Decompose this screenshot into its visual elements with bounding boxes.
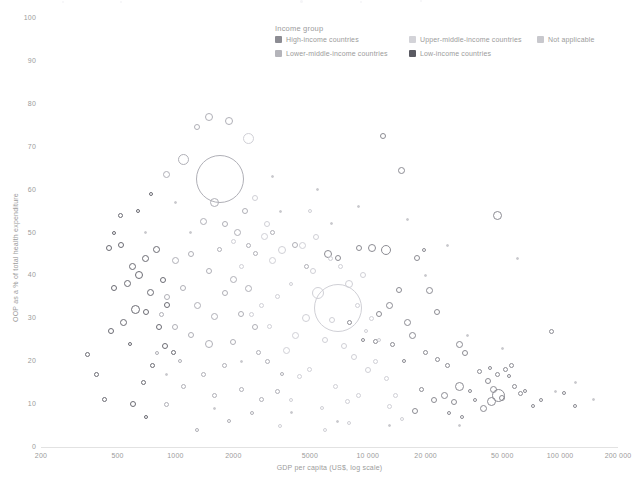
legend-item-not-applicable[interactable]: Not applicable (537, 36, 594, 43)
bubble-low-income-countries[interactable] (143, 309, 149, 315)
bubble-low-income-countries[interactable] (153, 246, 160, 253)
bubble-upper-middle-income-countries[interactable] (351, 354, 357, 360)
bubble-low-income-countries[interactable] (124, 280, 131, 287)
bubble-upper-middle-income-countries[interactable] (308, 209, 312, 213)
bubble-high-income-countries[interactable] (390, 342, 395, 347)
bubble-lower-middle-income-countries[interactable] (253, 251, 258, 256)
bubble-upper-middle-income-countries[interactable] (289, 398, 293, 402)
bubble-lower-middle-income-countries[interactable] (200, 218, 207, 225)
bubble-lower-middle-income-countries[interactable] (259, 397, 264, 402)
bubble-upper-middle-income-countries[interactable] (302, 314, 310, 322)
bubble-upper-middle-income-countries[interactable] (384, 376, 389, 381)
bubble-lower-middle-income-countries[interactable] (222, 363, 227, 368)
bubble-lower-middle-income-countries[interactable] (245, 285, 252, 292)
bubble-low-income-countries[interactable] (162, 343, 168, 349)
bubble-low-income-countries[interactable] (171, 350, 176, 355)
bubble-upper-middle-income-countries[interactable] (328, 256, 333, 261)
bubble-high-income-countries[interactable] (495, 372, 500, 377)
bubble-upper-middle-income-countries[interactable] (283, 347, 290, 354)
bubble-high-income-countries[interactable] (422, 248, 426, 252)
bubble-not-applicable[interactable] (406, 218, 409, 221)
bubble-high-income-countries[interactable] (380, 133, 386, 139)
bubble-lower-middle-income-countries[interactable] (225, 117, 233, 125)
bubble-upper-middle-income-countries[interactable] (252, 195, 258, 201)
bubble-high-income-countries[interactable] (402, 359, 406, 363)
bubble-lower-middle-income-countries[interactable] (164, 402, 169, 407)
bubble-high-income-countries[interactable] (509, 363, 514, 368)
bubble-low-income-countries[interactable] (147, 289, 154, 296)
bubble-lower-middle-income-countries[interactable] (275, 389, 280, 394)
bubble-not-applicable[interactable] (574, 381, 577, 384)
bubble-high-income-countries[interactable] (376, 311, 382, 317)
bubble-not-applicable[interactable] (466, 334, 469, 337)
bubble-high-income-countries[interactable] (356, 245, 362, 251)
bubble-lower-middle-income-countries[interactable] (265, 359, 270, 364)
bubble-high-income-countries[interactable] (445, 363, 450, 368)
bubble-low-income-countries[interactable] (128, 342, 132, 346)
bubble-high-income-countries[interactable] (431, 397, 437, 403)
bubble-upper-middle-income-countries[interactable] (275, 294, 280, 299)
bubble-lower-middle-income-countries[interactable] (188, 251, 194, 257)
bubble-low-income-countries[interactable] (136, 209, 140, 213)
bubble-high-income-countries[interactable] (480, 405, 487, 412)
bubble-lower-middle-income-countries[interactable] (172, 324, 178, 330)
bubble-not-applicable[interactable] (516, 257, 519, 260)
bubble-upper-middle-income-countries[interactable] (360, 272, 366, 278)
bubble-low-income-countries[interactable] (142, 255, 149, 262)
bubble-lower-middle-income-countries[interactable] (188, 332, 194, 338)
bubble-low-income-countries[interactable] (112, 231, 116, 235)
bubble-lower-middle-income-countries[interactable] (205, 340, 213, 348)
bubble-upper-middle-income-countries[interactable] (289, 282, 293, 286)
bubble-lower-middle-income-countries[interactable] (238, 311, 244, 317)
bubble-lower-middle-income-countries[interactable] (172, 257, 179, 264)
bubble-upper-middle-income-countries[interactable] (307, 367, 312, 372)
legend-item-lower-middle-income-countries[interactable]: Lower-middle-income countries (275, 50, 388, 57)
bubble-not-applicable[interactable] (424, 274, 427, 277)
bubble-high-income-countries[interactable] (485, 378, 491, 384)
bubble-lower-middle-income-countries[interactable] (159, 312, 164, 317)
bubble-high-income-countries[interactable] (493, 211, 502, 220)
bubble-high-income-countries[interactable] (462, 350, 468, 356)
bubble-lower-middle-income-countries[interactable] (181, 384, 186, 389)
bubble-upper-middle-income-countries[interactable] (239, 264, 244, 269)
bubble-lower-middle-income-countries[interactable] (205, 113, 213, 121)
bubble-low-income-countries[interactable] (102, 397, 107, 402)
bubble-not-applicable[interactable] (388, 424, 391, 427)
bubble-upper-middle-income-countries[interactable] (356, 393, 361, 398)
bubble-upper-middle-income-countries[interactable] (231, 239, 236, 244)
bubble-not-applicable[interactable] (165, 373, 168, 376)
bubble-low-income-countries[interactable] (130, 401, 136, 407)
bubble-high-income-countries[interactable] (434, 309, 440, 315)
bubble-not-applicable[interactable] (316, 188, 319, 191)
bubble-high-income-countries[interactable] (381, 245, 391, 255)
legend-item-upper-middle-income-countries[interactable]: Upper-middle-income countries (409, 36, 522, 43)
bubble-lower-middle-income-countries[interactable] (196, 155, 244, 203)
bubble-upper-middle-income-countries[interactable] (345, 399, 350, 404)
bubble-lower-middle-income-countries[interactable] (201, 372, 206, 377)
bubble-high-income-countries[interactable] (451, 399, 457, 405)
bubble-lower-middle-income-countries[interactable] (206, 268, 212, 274)
bubble-high-income-countries[interactable] (518, 391, 523, 396)
bubble-low-income-countries[interactable] (160, 277, 166, 283)
bubble-high-income-countries[interactable] (539, 398, 543, 402)
bubble-not-applicable[interactable] (189, 231, 192, 234)
bubble-high-income-countries[interactable] (477, 369, 482, 374)
bubble-not-applicable[interactable] (446, 244, 449, 247)
bubble-high-income-countries[interactable] (488, 366, 492, 370)
bubble-low-income-countries[interactable] (144, 415, 148, 419)
bubble-high-income-countries[interactable] (549, 329, 554, 334)
bubble-high-income-countries[interactable] (361, 338, 365, 342)
bubble-lower-middle-income-countries[interactable] (280, 372, 284, 376)
bubble-lower-middle-income-countries[interactable] (304, 264, 309, 269)
bubble-high-income-countries[interactable] (487, 397, 496, 406)
bubble-low-income-countries[interactable] (111, 285, 117, 291)
bubble-high-income-countries[interactable] (503, 367, 508, 372)
bubble-high-income-countries[interactable] (573, 404, 577, 408)
bubble-lower-middle-income-countries[interactable] (194, 124, 200, 130)
bubble-lower-middle-income-countries[interactable] (230, 339, 236, 345)
bubble-lower-middle-income-countries[interactable] (256, 350, 261, 355)
bubble-upper-middle-income-countries[interactable] (310, 268, 316, 274)
bubble-not-applicable[interactable] (330, 222, 333, 225)
bubble-lower-middle-income-countries[interactable] (212, 393, 217, 398)
bubble-high-income-countries[interactable] (447, 411, 451, 415)
